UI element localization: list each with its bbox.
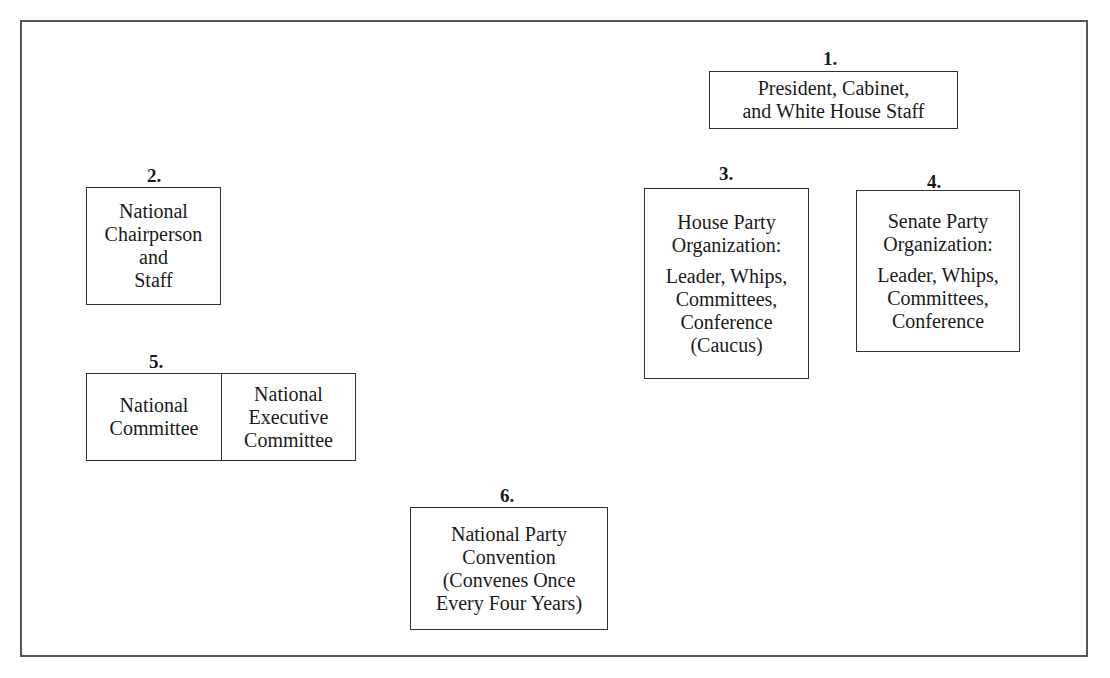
node-president-cabinet-staff: President, Cabinet, and White House Staf…: [709, 71, 958, 129]
node-5b-line-1: National: [254, 383, 323, 406]
node-national-party-convention: National Party Convention (Convenes Once…: [410, 507, 608, 630]
node-5b-line-2: Executive: [249, 406, 329, 429]
node-5a-line-2: Committee: [110, 417, 199, 440]
node-3-heading-2: Organization:: [672, 234, 782, 257]
node-1-line-1: President, Cabinet,: [758, 77, 910, 100]
node-6-line-1: National Party: [451, 523, 567, 546]
node-4-heading-2: Organization:: [883, 233, 993, 256]
node-5-number: 5.: [136, 352, 176, 372]
node-national-chairperson: National Chairperson and Staff: [86, 187, 221, 305]
node-1-line-2: and White House Staff: [742, 100, 924, 123]
node-2-line-2: Chairperson: [105, 223, 203, 246]
node-4-line-3: Conference: [892, 310, 984, 333]
node-national-committees: National Committee National Executive Co…: [86, 373, 356, 461]
node-senate-party-organization: Senate Party Organization: Leader, Whips…: [856, 190, 1020, 352]
node-3-line-4: (Caucus): [690, 334, 762, 357]
node-3-line-1: Leader, Whips,: [666, 265, 788, 288]
node-3-line-3: Conference: [680, 311, 772, 334]
node-4-number: 4.: [914, 172, 954, 192]
node-6-line-3: (Convenes Once: [443, 569, 576, 592]
node-3-heading-1: House Party: [677, 211, 775, 234]
node-2-number: 2.: [134, 166, 174, 186]
node-house-party-organization: House Party Organization: Leader, Whips,…: [644, 188, 809, 379]
node-1-number: 1.: [810, 49, 850, 69]
node-6-line-2: Convention: [462, 546, 555, 569]
node-6-number: 6.: [487, 486, 527, 506]
node-3-number: 3.: [706, 164, 746, 184]
national-executive-committee-cell: National Executive Committee: [221, 374, 355, 460]
node-5a-line-1: National: [120, 394, 189, 417]
node-2-line-4: Staff: [134, 269, 173, 292]
node-5b-line-3: Committee: [244, 429, 333, 452]
node-3-line-2: Committees,: [676, 288, 778, 311]
node-2-line-1: National: [119, 200, 188, 223]
node-6-line-4: Every Four Years): [436, 592, 582, 615]
node-4-heading-1: Senate Party: [888, 210, 989, 233]
node-4-line-1: Leader, Whips,: [877, 264, 999, 287]
node-2-line-3: and: [139, 246, 168, 269]
node-4-line-2: Committees,: [887, 287, 989, 310]
national-committee-cell: National Committee: [87, 374, 221, 460]
